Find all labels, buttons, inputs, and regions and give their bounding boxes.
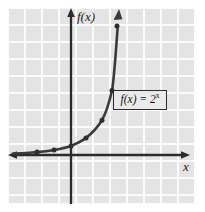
curve-point xyxy=(84,135,89,140)
curve-point xyxy=(115,24,120,29)
curve-point xyxy=(69,143,74,148)
x-axis-label: x xyxy=(183,160,189,173)
y-axis-label: f(x) xyxy=(77,10,95,23)
equation-annotation-box: f(x) = 2x xyxy=(113,90,167,110)
y-axis xyxy=(67,8,75,204)
y-axis-arrow-up xyxy=(67,8,75,17)
graph-vector-layer xyxy=(0,0,205,212)
equation-annotation-text: f(x) = 2x xyxy=(121,94,160,106)
equation-exponent: x xyxy=(156,91,160,100)
equation-base: f(x) = 2 xyxy=(121,93,156,105)
function-curve xyxy=(13,9,122,154)
curve-point xyxy=(52,148,57,153)
curve-point xyxy=(100,118,105,123)
exponential-function-figure: f(x) x f(x) = 2x xyxy=(0,0,205,212)
x-axis-arrow-right xyxy=(181,151,190,159)
curve-point xyxy=(35,150,40,155)
curve-point-markers xyxy=(35,24,120,155)
curve-arrow-up xyxy=(114,9,123,20)
